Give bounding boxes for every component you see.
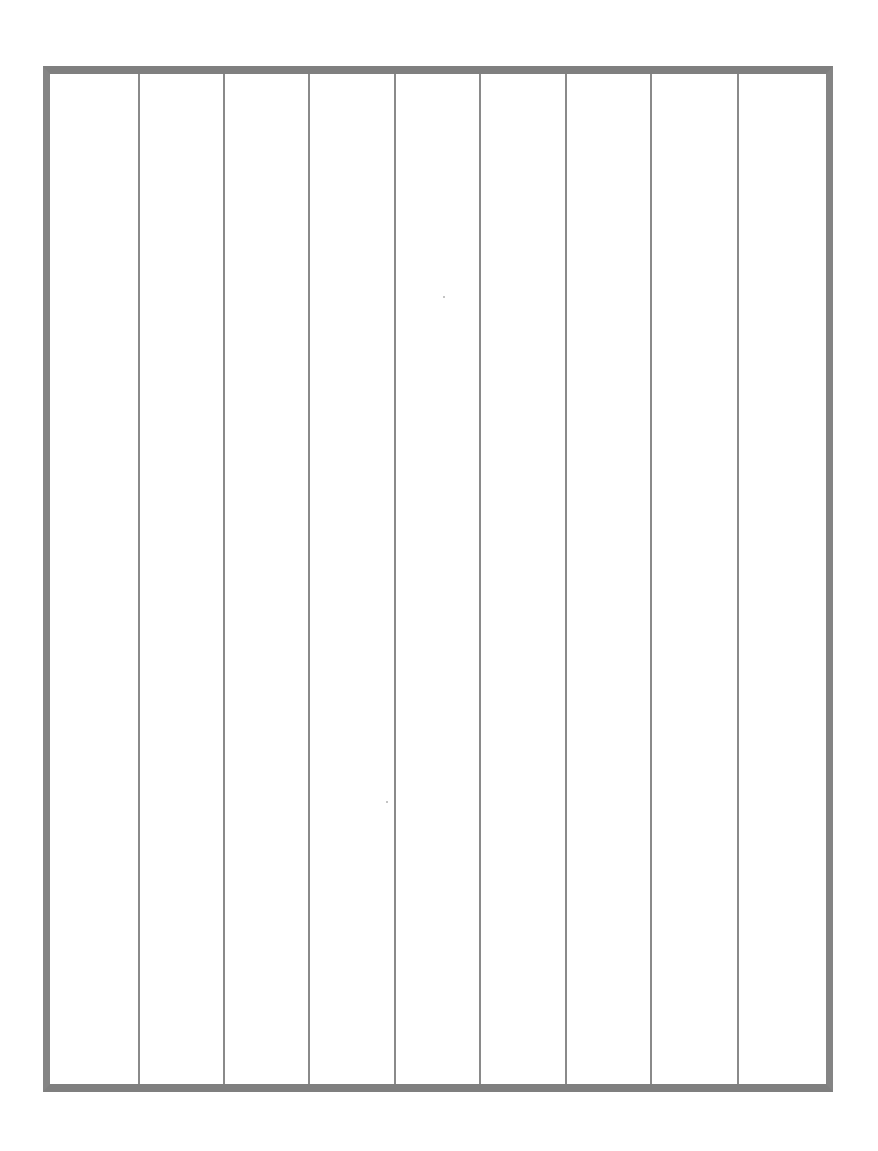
paper-speck bbox=[443, 296, 445, 298]
column-divider-line bbox=[650, 74, 652, 1084]
column-divider-line bbox=[394, 74, 396, 1084]
column-divider-line bbox=[479, 74, 481, 1084]
column-divider-line bbox=[565, 74, 567, 1084]
column-divider-line bbox=[737, 74, 739, 1084]
column-divider-line bbox=[223, 74, 225, 1084]
grid-sheet-page bbox=[0, 0, 878, 1151]
grid-border-frame bbox=[43, 66, 833, 1092]
column-divider-line bbox=[138, 74, 140, 1084]
paper-speck bbox=[386, 801, 388, 803]
column-divider-line bbox=[308, 74, 310, 1084]
